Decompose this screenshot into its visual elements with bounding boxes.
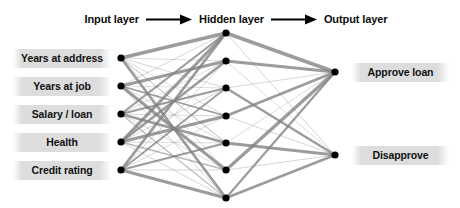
hidden-node-6 [222,194,229,201]
hidden-node-2 [222,84,229,91]
output-node-1 [331,151,338,158]
hidden-node-4 [222,139,229,146]
input-node-4 [117,166,124,173]
input-feature-label: Credit rating [13,161,111,180]
input-feature-label: Years at address [13,49,111,68]
input-feature-label: Years at job [13,77,111,96]
input-feature-label: Salary / loan [13,105,111,124]
edge-hidden-output [226,155,335,198]
neural-network-diagram: Input layer Hidden layer Output layer Ye… [0,0,460,208]
hidden-node-0 [222,29,229,36]
hidden-node-5 [222,166,229,173]
edge-hidden-output [226,72,335,116]
input-node-2 [117,110,124,117]
edge-input-hidden [121,170,226,198]
input-node-0 [117,54,124,61]
output-class-label: Disapprove [352,146,449,165]
edge-hidden-output [226,72,335,198]
edge-input-hidden [121,33,226,86]
output-node-0 [331,68,338,75]
edge-hidden-output [226,72,335,143]
hidden-node-3 [222,112,229,119]
node-group [117,29,338,201]
input-feature-label: Health [13,133,111,152]
edge-input-hidden [121,88,226,142]
hidden-node-1 [222,57,229,64]
input-node-1 [117,82,124,89]
edge-hidden-output [226,72,335,170]
output-class-label: Approve loan [352,63,449,82]
input-node-3 [117,138,124,145]
